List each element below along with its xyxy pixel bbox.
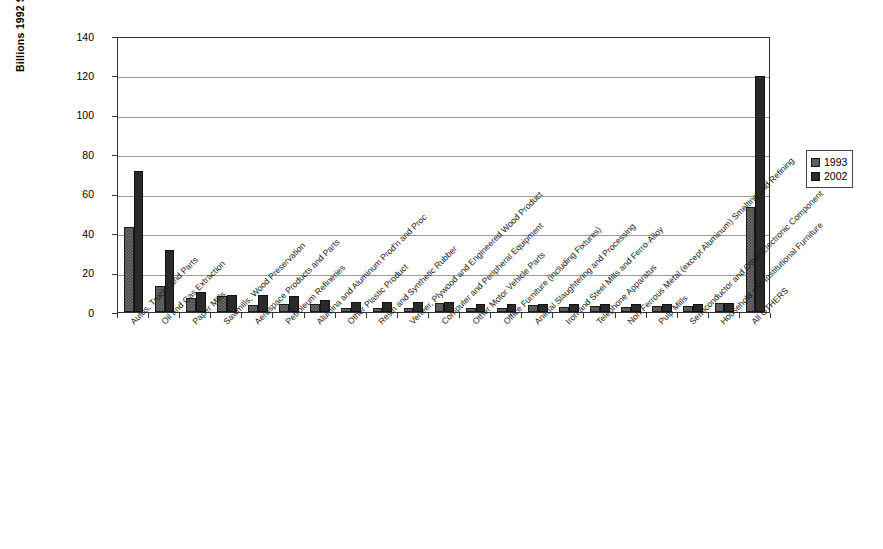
bar-2002 <box>476 304 486 312</box>
chart-figure: Billions 1992 $ CDN 020406080100120140 A… <box>0 0 883 549</box>
x-axis-tick-mark <box>117 313 118 318</box>
x-axis-tick-mark <box>304 313 305 318</box>
bar-1993 <box>715 303 725 312</box>
y-axis-tick-label: 20 <box>54 268 94 278</box>
y-axis-tick-label: 0 <box>54 308 94 318</box>
bar-2002 <box>755 76 765 312</box>
bar-1993 <box>746 207 756 312</box>
x-axis-tick-mark <box>677 313 678 318</box>
x-axis-tick-mark <box>552 313 553 318</box>
bar-group <box>678 38 709 312</box>
bar-1993 <box>435 303 445 312</box>
x-axis-tick-mark <box>335 313 336 318</box>
bar-1993 <box>217 296 227 312</box>
bar-group <box>584 38 615 312</box>
bar-group <box>460 38 491 312</box>
bar-2002 <box>444 302 454 312</box>
x-axis-tick-mark <box>646 313 647 318</box>
bar-1993 <box>279 304 289 312</box>
bar-2002 <box>538 304 548 312</box>
x-axis-tick-mark <box>179 313 180 318</box>
bar-group <box>553 38 584 312</box>
bar-group <box>367 38 398 312</box>
bar-group <box>429 38 460 312</box>
bar-1993 <box>683 306 693 312</box>
bar-2002 <box>413 302 423 312</box>
legend-label-2002: 2002 <box>824 170 847 182</box>
plot-area <box>117 37 770 313</box>
bar-2002 <box>662 304 672 312</box>
x-axis-tick-mark <box>459 313 460 318</box>
y-axis-tick-label: 100 <box>54 110 94 120</box>
bar-1993 <box>621 307 631 312</box>
x-axis-tick-mark <box>739 313 740 318</box>
bar-1993 <box>186 298 196 312</box>
bar-group <box>491 38 522 312</box>
bar-1993 <box>404 308 414 312</box>
bar-2002 <box>196 292 206 312</box>
legend-label-1993: 1993 <box>824 156 847 168</box>
bar-2002 <box>165 250 175 312</box>
x-axis-tick-mark <box>241 313 242 318</box>
y-axis-tick-label: 80 <box>54 150 94 160</box>
legend-swatch-2002 <box>811 172 820 181</box>
x-axis-tick-mark <box>521 313 522 318</box>
legend: 1993 2002 <box>806 150 853 188</box>
bar-2002 <box>507 304 517 312</box>
legend-swatch-1993 <box>811 158 820 167</box>
x-axis-tick-mark <box>210 313 211 318</box>
x-axis-tick-mark <box>583 313 584 318</box>
bar-2002 <box>134 171 144 312</box>
bar-1993 <box>155 286 165 312</box>
bar-group <box>709 38 740 312</box>
x-axis-tick-mark <box>272 313 273 318</box>
bar-2002 <box>258 295 268 312</box>
y-axis-title: Billions 1992 $ CDN <box>14 0 26 72</box>
bar-group <box>305 38 336 312</box>
bar-1993 <box>341 308 351 312</box>
bar-1993 <box>248 305 258 312</box>
bar-1993 <box>373 308 383 312</box>
y-axis-tick-label: 60 <box>54 189 94 199</box>
bar-group <box>242 38 273 312</box>
bar-2002 <box>600 304 610 312</box>
bar-1993 <box>652 306 662 312</box>
bar-group <box>398 38 429 312</box>
bar-1993 <box>559 307 569 312</box>
bar-group <box>740 38 771 312</box>
bar-1993 <box>466 308 476 312</box>
bar-group <box>211 38 242 312</box>
x-axis-tick-mark <box>366 313 367 318</box>
bar-2002 <box>320 300 330 312</box>
x-axis-tick-mark <box>428 313 429 318</box>
y-axis-tick-label: 40 <box>54 229 94 239</box>
bar-2002 <box>227 295 237 312</box>
bar-2002 <box>289 296 299 312</box>
bar-2002 <box>569 304 579 312</box>
bar-1993 <box>124 227 134 312</box>
bar-group <box>336 38 367 312</box>
bar-1993 <box>310 304 320 312</box>
y-axis-tick-label: 140 <box>54 32 94 42</box>
legend-item-2002: 2002 <box>811 169 847 183</box>
y-axis-tick-label: 120 <box>54 71 94 81</box>
bar-group <box>647 38 678 312</box>
bar-group <box>118 38 149 312</box>
x-axis-tick-mark <box>770 313 771 318</box>
bar-group <box>180 38 211 312</box>
bar-group <box>149 38 180 312</box>
x-axis-tick-mark <box>148 313 149 318</box>
bar-2002 <box>693 304 703 312</box>
x-axis-tick-mark <box>615 313 616 318</box>
legend-item-1993: 1993 <box>811 155 847 169</box>
bar-2002 <box>631 304 641 312</box>
bar-1993 <box>590 306 600 312</box>
bar-2002 <box>382 302 392 312</box>
x-axis-tick-mark <box>397 313 398 318</box>
bar-group <box>273 38 304 312</box>
bar-series-container <box>118 38 769 312</box>
bar-1993 <box>497 308 507 312</box>
x-axis-tick-mark <box>708 313 709 318</box>
bar-group <box>616 38 647 312</box>
bar-2002 <box>351 302 361 312</box>
